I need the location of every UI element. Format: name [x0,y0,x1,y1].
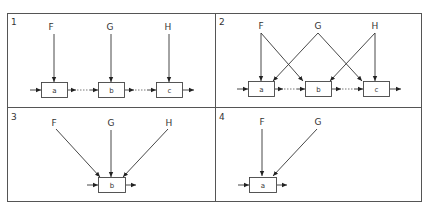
arrow-g-to-a [273,33,318,81]
arrow-g-to-c [318,33,362,81]
input-label-h: H [372,21,379,31]
panel-4: 4 F G a [219,112,322,193]
box-label-a: a [259,86,263,94]
arrow-h-to-b [330,33,375,81]
input-label-g: G [108,118,115,128]
box-label-a: a [261,182,265,190]
input-label-f: F [51,118,56,128]
input-label-f: F [258,21,263,31]
input-label-h: H [165,22,172,32]
box-label-b: b [316,86,321,94]
input-label-f: F [259,117,264,127]
box-label-c: c [375,86,379,94]
input-label-f: F [48,22,53,32]
box-label-b: b [109,87,114,95]
arrow-g-to-a [273,129,317,176]
input-label-g: G [107,22,114,32]
panel-1: 1 F G H a b c [11,17,194,98]
input-label-g: G [315,117,322,127]
panel-grid [8,14,422,202]
panel-number: 1 [11,17,17,27]
box-label-b: b [110,182,115,190]
input-label-h: H [166,118,173,128]
input-label-g: G [315,21,322,31]
panel-2: 2 F G H a b c [219,17,401,97]
panel-3: 3 F G H b [11,112,172,193]
panel-number: 2 [219,17,225,27]
box-label-a: a [52,87,56,95]
box-label-c: c [168,87,172,95]
arrow-f-to-b [261,33,303,81]
panel-number: 4 [219,112,225,122]
diagram: 1 F G H a b c 2 F G H [0,0,429,208]
panel-number: 3 [11,112,17,122]
arrow-h-to-b [123,129,168,177]
arrow-f-to-b [56,129,100,177]
